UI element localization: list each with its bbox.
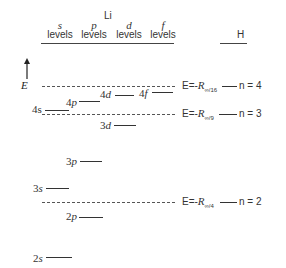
level-label-2s: 2s — [33, 252, 43, 264]
column-header-p: p levels — [77, 20, 111, 40]
energy-level-diagram: Li s levels p levels d levels f levels H… — [0, 0, 286, 268]
level-line-4p — [79, 101, 100, 102]
level-label-4f: 4f — [139, 87, 148, 99]
dashed-line-n3 — [42, 114, 175, 115]
h-level-n3: E=-R∞/9 — [182, 107, 214, 121]
h-n-label-3: n = 3 — [239, 108, 262, 119]
level-line-2p — [79, 217, 103, 218]
energy-axis-arrow-icon — [22, 58, 32, 80]
level-label-3d: 3d — [100, 119, 111, 131]
h-level-n2: E=-R∞/4 — [182, 195, 214, 209]
level-label-2p: 2p — [66, 210, 77, 222]
level-label-3s: 3s — [33, 182, 43, 194]
h-n-label-2: n = 2 — [239, 196, 262, 207]
level-label-4p: 4p — [66, 96, 77, 108]
dashed-line-n2 — [42, 202, 175, 203]
dashed-line-n4 — [42, 86, 175, 87]
level-line-3s — [46, 188, 69, 189]
hydrogen-header-rule — [220, 43, 247, 44]
h-level-n4: E=-R∞/16 — [182, 79, 217, 93]
h-level-line-n3 — [219, 114, 237, 115]
h-level-line-n2 — [220, 202, 237, 203]
level-label-3p: 3p — [66, 155, 77, 167]
level-line-2s — [46, 257, 72, 258]
hydrogen-title: H — [237, 29, 244, 40]
column-header-f: f levels — [146, 20, 180, 40]
column-header-d: d levels — [112, 20, 146, 40]
level-line-3p — [80, 161, 102, 162]
level-line-4d — [115, 95, 134, 96]
level-label-4d: 4d — [100, 88, 111, 100]
h-level-line-n4 — [222, 86, 237, 87]
level-line-3d — [114, 125, 136, 126]
column-label: levels — [116, 29, 142, 40]
li-header-rule — [41, 43, 174, 44]
column-label: levels — [47, 29, 73, 40]
column-header-s: s levels — [43, 20, 77, 40]
level-line-4f — [152, 92, 173, 93]
level-label-4s: 4s — [32, 103, 42, 115]
column-label: levels — [81, 29, 107, 40]
energy-axis-label: E — [21, 79, 28, 91]
column-label: levels — [150, 29, 176, 40]
level-line-4s — [45, 110, 69, 111]
h-n-label-4: n = 4 — [239, 80, 262, 91]
